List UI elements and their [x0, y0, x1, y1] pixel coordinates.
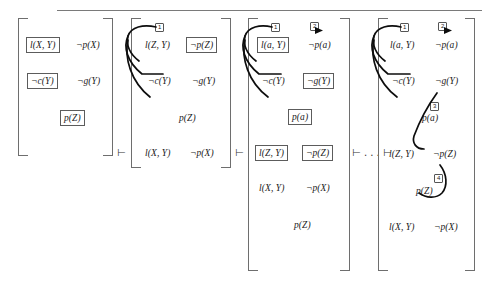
- literal-cell: l(Z, Y): [255, 145, 288, 161]
- bracket-right: [103, 18, 113, 156]
- panel-3: l(a, Y) ¬p(a) ¬c(Y) ¬g(Y) p(a) l(Z, Y) ¬…: [248, 18, 350, 271]
- turnstile-2: ⊢: [235, 147, 244, 158]
- step-tag: 1: [155, 23, 164, 32]
- step-tag: 1: [400, 23, 409, 32]
- panel-4: l(a, Y) ¬p(a) ¬c(Y) ¬g(Y) p(a) l(Z, Y) ¬…: [378, 18, 475, 271]
- literal-cell: l(a, Y): [387, 38, 417, 52]
- literal-cell: ¬p(a): [432, 38, 461, 52]
- literal-cell: p(Z): [291, 218, 314, 232]
- literal-cell: l(X, Y): [26, 37, 60, 53]
- literal-cell: ¬p(Z): [186, 37, 217, 53]
- literal-cell: ¬p(X): [73, 38, 103, 52]
- bracket-right: [340, 18, 350, 271]
- step-tag: 2: [438, 22, 447, 31]
- step-tag: 2: [310, 22, 319, 31]
- step-tag: 1: [271, 23, 280, 32]
- panel-2: l(Z, Y) ¬p(Z) ¬c(Y) ¬g(Y) p(Z) l(X, Y) ¬…: [131, 18, 231, 168]
- literal-cell: ¬g(Y): [74, 74, 103, 88]
- literal-cell: l(X, Y): [142, 146, 174, 160]
- literal-cell: p(Z): [60, 110, 85, 126]
- literal-cell: l(Z, Y): [386, 147, 417, 161]
- figure-canvas: l(X, Y) ¬p(X) ¬c(Y) ¬g(Y) p(Z) ⊢ l(Z, Y)…: [0, 0, 483, 281]
- literal-cell: p(Z): [176, 111, 199, 125]
- literal-cell: ¬p(X): [187, 146, 217, 160]
- literal-cell: ¬p(X): [303, 181, 333, 195]
- bracket-left: [131, 18, 141, 168]
- literal-cell: l(X, Y): [386, 220, 418, 234]
- literal-cell: ¬g(Y): [189, 74, 218, 88]
- literal-cell: ¬g(Y): [432, 74, 461, 88]
- literal-cell: l(a, Y): [257, 37, 289, 53]
- literal-cell: p(a): [419, 111, 441, 125]
- literal-cell: l(X, Y): [256, 181, 288, 195]
- literal-cell: ¬c(Y): [145, 74, 174, 88]
- panel-1: l(X, Y) ¬p(X) ¬c(Y) ¬g(Y) p(Z): [18, 18, 113, 156]
- literal-cell: p(Z): [413, 184, 436, 198]
- literal-cell: l(Z, Y): [142, 38, 173, 52]
- literal-cell: ¬g(Y): [303, 73, 334, 89]
- step-tag: 3: [430, 102, 439, 111]
- literal-cell: ¬c(Y): [259, 74, 288, 88]
- literal-cell: ¬c(Y): [389, 74, 418, 88]
- literal-cell: p(a): [288, 109, 312, 125]
- turnstile-1: ⊢: [117, 147, 126, 158]
- bracket-right: [465, 18, 475, 271]
- literal-cell: ¬p(X): [431, 220, 461, 234]
- literal-cell: ¬p(a): [305, 38, 334, 52]
- literal-cell: ¬p(Z): [302, 145, 333, 161]
- literal-cell: ¬c(Y): [27, 73, 58, 89]
- literal-cell: ¬p(Z): [430, 147, 459, 161]
- top-rule-line: [57, 10, 482, 11]
- bracket-right: [221, 18, 231, 168]
- step-tag: 4: [434, 174, 443, 183]
